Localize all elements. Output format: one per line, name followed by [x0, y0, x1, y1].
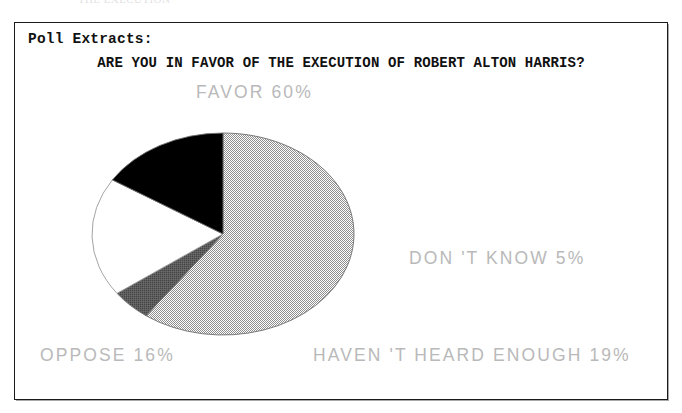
section-label: Poll Extracts: [28, 31, 153, 47]
poll-extract-panel [14, 22, 668, 400]
slice-label-havent-heard-enough: HAVEN 'T HEARD ENOUGH 19% [313, 345, 631, 366]
poll-question-title: ARE YOU IN FAVOR OF THE EXECUTION OF ROB… [0, 55, 682, 71]
slice-label-favor: FAVOR 60% [196, 82, 313, 103]
slice-label-dont-know: DON 'T KNOW 5% [409, 248, 585, 269]
slice-label-oppose: OPPOSE 16% [40, 345, 175, 366]
clipped-header-artifact: THE EXECUTION [78, 0, 238, 5]
